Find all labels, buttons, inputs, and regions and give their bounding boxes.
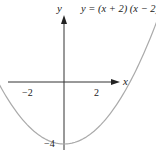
y-axis-label: y [57, 3, 62, 14]
x-tick-label-neg2: −2 [22, 88, 33, 98]
x-tick-label-pos2: 2 [94, 88, 99, 98]
x-axis-arrow-icon [111, 79, 120, 85]
equation-label: y = (x + 2) (x − 2) [81, 4, 156, 15]
y-tick-label-neg4: −4 [44, 139, 55, 149]
parabola-curve [0, 14, 156, 144]
x-axis-label: x [123, 76, 128, 87]
chart-canvas [0, 0, 156, 151]
y-axis-arrow-icon [61, 15, 67, 24]
parabola-chart: y y = (x + 2) (x − 2) x −2 2 −4 [0, 0, 156, 151]
equation-text: y = (x + 2) (x − 2) [81, 3, 156, 14]
